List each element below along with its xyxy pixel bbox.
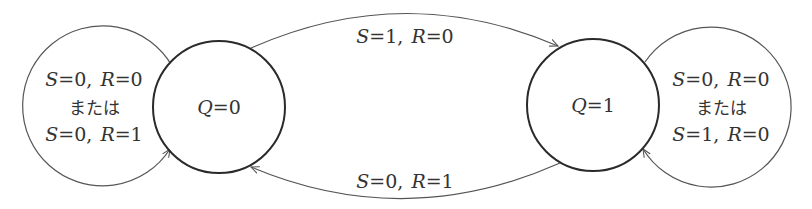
loop-q1-condition-2: S=1,R=0 — [672, 123, 769, 145]
loop-q1-connector: または — [696, 98, 747, 118]
state-q1-label: Q=1 — [571, 94, 615, 116]
loop-q0-connector: または — [69, 98, 120, 118]
transition-q1-to-q0-label: S=0,R=1 — [356, 170, 453, 192]
loop-q1-condition-1: S=0,R=0 — [672, 68, 769, 90]
loop-q0-condition-1: S=0,R=0 — [45, 68, 142, 90]
state-diagram: Q=0 Q=1 S=0,R=0 または S=0,R=1 S=0,R=0 または … — [0, 0, 812, 209]
loop-q0-condition-2: S=0,R=1 — [45, 123, 142, 145]
state-q0-label: Q=0 — [197, 96, 241, 118]
transition-q0-to-q1-label: S=1,R=0 — [356, 25, 453, 47]
transition-q0-to-q1 — [251, 13, 558, 48]
transition-q1-to-q0 — [251, 163, 560, 199]
